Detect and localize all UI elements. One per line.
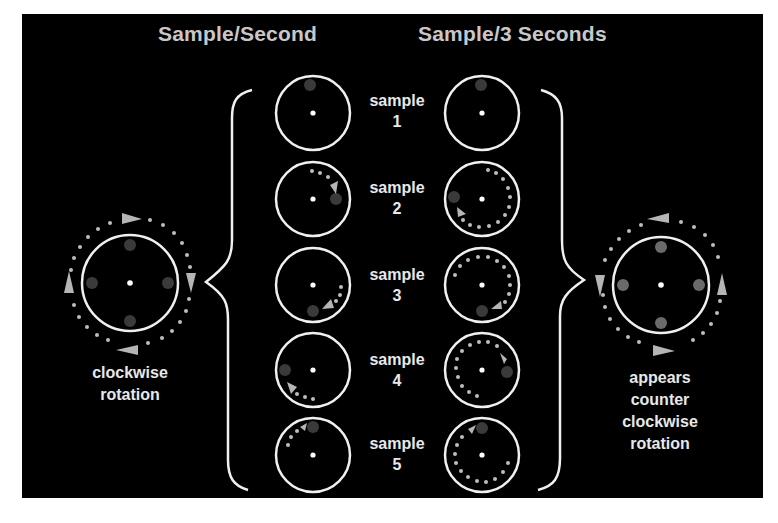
sample-word: sample — [352, 433, 442, 454]
sample-word: sample — [352, 349, 442, 370]
counter-clockwise-caption: appears counter clockwise rotation — [600, 367, 720, 455]
left-sample-4 — [276, 333, 350, 407]
sample-number: 2 — [352, 198, 442, 219]
clockwise-wheel — [64, 213, 196, 355]
sample-number: 1 — [352, 111, 442, 132]
caption-line: counter — [600, 389, 720, 411]
sample-number: 3 — [352, 285, 442, 306]
counter-clockwise-wheel — [595, 213, 727, 356]
caption-line: rotation — [70, 384, 190, 406]
left-sample-5 — [276, 418, 350, 492]
right-sample-2 — [445, 162, 519, 236]
caption-line: appears — [600, 367, 720, 389]
sample-label-4: sample 4 — [352, 349, 442, 391]
sample-label-5: sample 5 — [352, 433, 442, 475]
sample-label-2: sample 2 — [352, 177, 442, 219]
right-sample-5 — [445, 418, 519, 492]
left-sample-3 — [276, 248, 350, 322]
right-sample-1 — [445, 76, 519, 150]
sample-number: 4 — [352, 370, 442, 391]
sample-word: sample — [352, 90, 442, 111]
right-sample-3 — [445, 248, 519, 322]
left-sample-1 — [276, 76, 350, 150]
sample-label-3: sample 3 — [352, 264, 442, 306]
caption-line: rotation — [600, 433, 720, 455]
left-sample-2 — [276, 162, 350, 236]
right-sample-4 — [445, 333, 519, 407]
left-brace — [206, 90, 252, 490]
sample-word: sample — [352, 177, 442, 198]
sample-word: sample — [352, 264, 442, 285]
sample-number: 5 — [352, 454, 442, 475]
caption-line: clockwise — [70, 362, 190, 384]
caption-line: clockwise — [600, 411, 720, 433]
clockwise-caption: clockwise rotation — [70, 362, 190, 406]
sample-label-1: sample 1 — [352, 90, 442, 132]
right-brace — [538, 90, 584, 490]
